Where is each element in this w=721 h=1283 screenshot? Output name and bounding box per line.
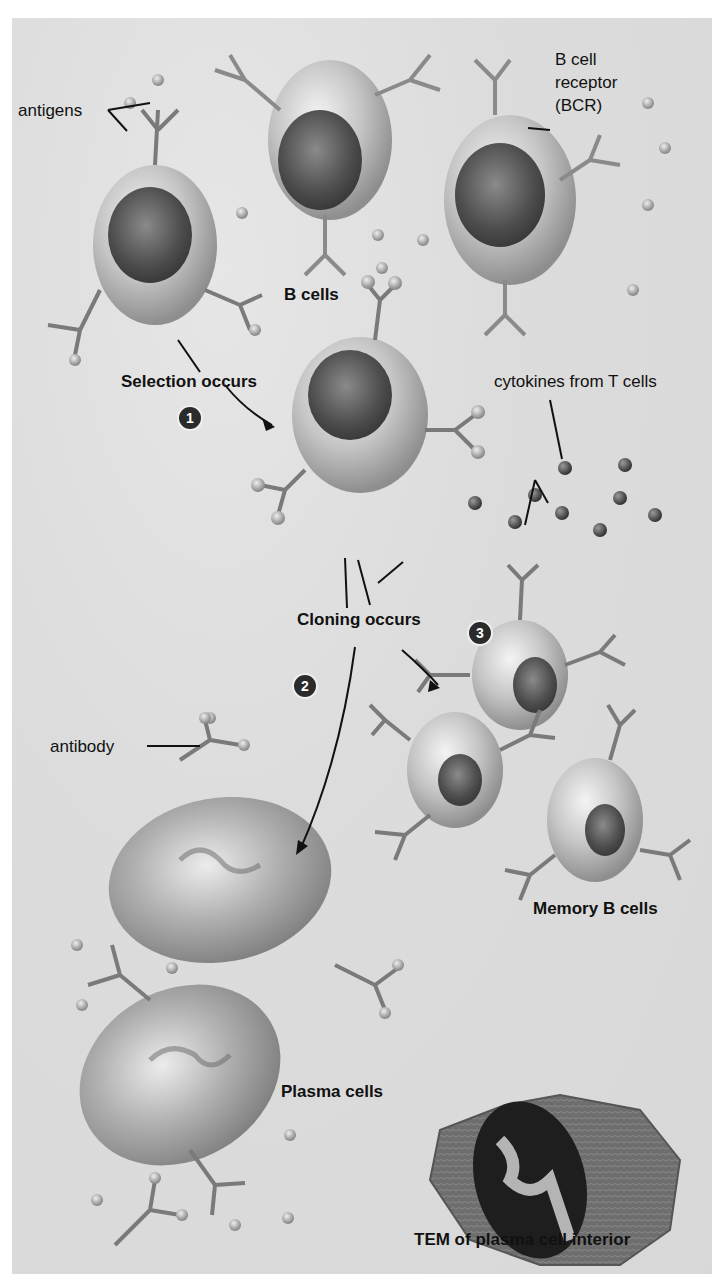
label-b-cells: B cells	[284, 285, 339, 304]
step-1-badge: 1	[177, 405, 203, 431]
label-tem: TEM of plasma cell interior	[414, 1230, 630, 1249]
label-bcr-line3: (BCR)	[555, 96, 602, 115]
label-bcr-line2: receptor	[555, 73, 617, 92]
label-memory-b-cells: Memory B cells	[533, 899, 658, 918]
memory-b-cell	[415, 565, 625, 730]
plasma-cell	[95, 780, 344, 980]
selected-b-cell	[251, 275, 485, 525]
step-2-badge: 2	[292, 673, 318, 699]
b-cell	[215, 55, 440, 275]
plasma-cell	[47, 949, 314, 1201]
label-selection: Selection occurs	[121, 372, 257, 391]
label-antibody: antibody	[50, 737, 114, 756]
cytokines	[468, 458, 662, 537]
b-cell	[48, 110, 262, 355]
label-cytokines: cytokines from T cells	[494, 372, 657, 391]
label-bcr-line1: B cell	[555, 50, 597, 69]
label-antigens: antigens	[18, 101, 82, 120]
label-cloning: Cloning occurs	[297, 610, 421, 629]
step-3-badge: 3	[467, 620, 493, 646]
label-plasma-cells: Plasma cells	[281, 1082, 383, 1101]
